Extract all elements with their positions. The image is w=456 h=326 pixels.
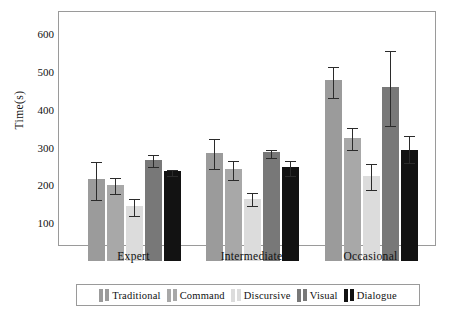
- legend-swatch-bar-icon: [303, 289, 307, 301]
- legend-label: Command: [180, 290, 225, 301]
- error-bar-intermediate-discursive: [247, 193, 258, 207]
- bar-expert-dialogue: [164, 171, 181, 261]
- legend-swatch-visual: [297, 289, 307, 302]
- error-bar-occasional-traditional: [328, 67, 339, 98]
- y-tick-400: 400: [14, 105, 54, 116]
- legend-swatch-traditional: [99, 289, 109, 302]
- chart-legend: TraditionalCommandDiscursiveVisualDialog…: [76, 284, 420, 306]
- error-bar-intermediate-dialogue: [285, 161, 296, 177]
- legend-label: Visual: [310, 290, 338, 301]
- error-bar-expert-discursive: [129, 199, 140, 218]
- error-bar-occasional-dialogue: [404, 136, 415, 164]
- error-bar-expert-dialogue: [167, 170, 178, 177]
- legend-swatch-bar-icon: [173, 289, 177, 301]
- y-tick-500: 500: [14, 67, 54, 78]
- legend-swatch-bar-icon: [297, 289, 301, 302]
- error-bar-intermediate-visual: [266, 150, 277, 159]
- error-bar-occasional-command: [347, 128, 358, 151]
- legend-swatch-bar-icon: [105, 289, 109, 301]
- error-bar-expert-command: [110, 178, 121, 194]
- legend-swatch-dialogue: [344, 289, 354, 302]
- bar-occasional-dialogue: [401, 150, 418, 261]
- legend-label: Traditional: [112, 290, 160, 301]
- y-tick-300: 300: [14, 143, 54, 154]
- error-bar-occasional-discursive: [366, 164, 377, 191]
- x-tick-occasional: Occasional: [311, 250, 431, 262]
- bar-expert-visual: [145, 160, 162, 261]
- legend-item-dialogue[interactable]: Dialogue: [341, 289, 400, 302]
- y-tick-100: 100: [14, 218, 54, 229]
- error-bar-expert-traditional: [91, 162, 102, 201]
- error-bar-intermediate-command: [228, 161, 239, 181]
- legend-label: Dialogue: [357, 290, 397, 301]
- y-tick-600: 600: [14, 29, 54, 40]
- legend-swatch-bar-icon: [350, 289, 354, 301]
- legend-swatch-bar-icon: [99, 289, 103, 302]
- legend-swatch-command: [167, 289, 177, 302]
- legend-item-visual[interactable]: Visual: [294, 289, 341, 302]
- y-tick-200: 200: [14, 180, 54, 191]
- chart-figure: Time(s) 600500400300200100 ExpertInterme…: [0, 0, 456, 326]
- x-tick-expert: Expert: [74, 250, 194, 262]
- legend-item-command[interactable]: Command: [164, 289, 228, 302]
- bar-occasional-traditional: [325, 80, 342, 261]
- error-bar-occasional-visual: [385, 51, 396, 127]
- plot-area: [58, 11, 436, 246]
- error-bar-intermediate-traditional: [209, 139, 220, 169]
- bar-intermediate-dialogue: [282, 167, 299, 261]
- legend-item-traditional[interactable]: Traditional: [96, 289, 163, 302]
- legend-swatch-bar-icon: [344, 289, 348, 302]
- bar-occasional-command: [344, 138, 361, 261]
- x-tick-intermediate: Intermediate: [192, 250, 312, 262]
- error-bar-expert-visual: [148, 155, 159, 168]
- legend-item-discursive[interactable]: Discursive: [228, 289, 294, 302]
- legend-label: Discursive: [244, 290, 291, 301]
- legend-swatch-bar-icon: [167, 289, 171, 302]
- bar-intermediate-visual: [263, 152, 280, 261]
- legend-swatch-bar-icon: [237, 289, 241, 301]
- bar-intermediate-command: [225, 169, 242, 261]
- legend-swatch-discursive: [231, 289, 241, 302]
- legend-swatch-bar-icon: [231, 289, 235, 302]
